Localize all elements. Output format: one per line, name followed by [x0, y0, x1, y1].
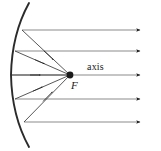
reflected-ray-group	[11, 30, 70, 122]
mirror-ray-diagram-canvas	[0, 0, 161, 151]
reflected-ray-2-arrow	[35, 60, 44, 64]
reflected-ray-4	[15, 75, 70, 99]
incident-ray-group	[11, 30, 140, 122]
reflected-ray-5-arrow	[43, 92, 52, 101]
reflected-ray-1-arrow	[44, 51, 53, 59]
reflected-ray-4-arrow	[33, 87, 42, 91]
optics-diagram-figure: axis F	[0, 0, 161, 151]
focal-point-label: F	[71, 80, 78, 91]
focal-point-dot	[67, 72, 74, 79]
axis-label: axis	[87, 62, 104, 72]
